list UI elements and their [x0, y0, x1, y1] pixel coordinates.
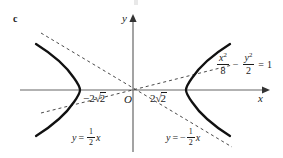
asym-left-denominator: 2: [87, 138, 95, 147]
equation-equals: =: [258, 60, 264, 70]
equation-term2-fraction: y2 2: [243, 53, 255, 76]
asym-right-lhs: y: [166, 133, 170, 143]
asymptote-right-label: y = − 1 2 x: [166, 128, 200, 147]
asym-left-equals: =: [78, 133, 84, 143]
asym-right-minus: −: [180, 133, 186, 143]
hyperbola-plot: [0, 0, 283, 158]
asym-right-fraction: 1 2: [187, 128, 195, 147]
asym-left-lhs: y: [72, 133, 76, 143]
equation-operator: −: [233, 60, 239, 70]
asym-right-numerator: 1: [187, 128, 195, 138]
vertex-negative-label: −2√2: [83, 92, 106, 104]
asym-left-fraction: 1 2: [87, 128, 95, 147]
vertex-positive-label: 2√2: [150, 92, 167, 104]
equation-term1-denominator: 8: [218, 65, 227, 76]
hyperbola-equation-label: x2 8 − y2 2 = 1: [216, 53, 272, 76]
hyperbola-figure: c y x O −2√2 2√2 y = 1 2 x y = −: [0, 0, 283, 158]
asymptote-left-label: y = 1 2 x: [72, 128, 101, 147]
equation-term1-numerator: x2: [217, 53, 229, 65]
origin-label: O: [124, 94, 132, 105]
asym-right-equals: =: [172, 133, 178, 143]
equation-term2-numerator: y2: [243, 53, 255, 65]
asym-left-variable: x: [96, 133, 100, 143]
vertex-negative-sign: −2: [83, 93, 95, 104]
equation-term1-fraction: x2 8: [217, 53, 229, 76]
equation-rhs: 1: [267, 60, 272, 70]
part-label: c: [13, 14, 17, 24]
vertex-negative-radicand: 2: [100, 92, 107, 104]
asym-left-numerator: 1: [87, 128, 95, 138]
y-axis-label: y: [122, 13, 127, 24]
asym-right-variable: x: [196, 133, 200, 143]
vertex-positive-radicand: 2: [161, 92, 168, 104]
x-axis-label: x: [258, 93, 263, 104]
y-axis-arrow-icon: [129, 14, 136, 22]
equation-term2-denominator: 2: [244, 65, 253, 76]
asym-right-denominator: 2: [187, 138, 195, 147]
x-axis-arrow-icon: [262, 86, 270, 93]
